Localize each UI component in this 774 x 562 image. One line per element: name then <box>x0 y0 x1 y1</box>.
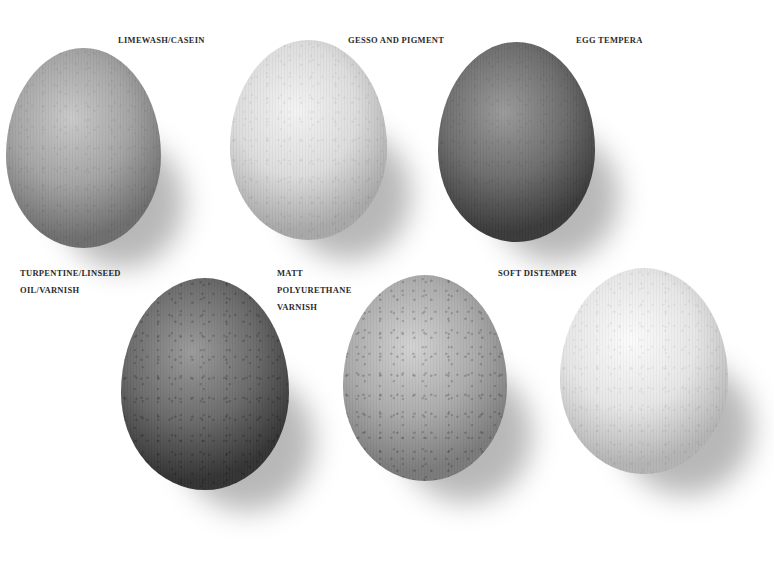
egg-matt-polyurethane-varnish <box>343 275 507 481</box>
egg-body <box>438 42 595 242</box>
egg-body <box>230 40 387 240</box>
egg-texture <box>560 268 728 474</box>
egg-soft-distemper <box>560 268 728 474</box>
egg-gesso-and-pigment <box>230 40 387 240</box>
egg-texture <box>343 275 507 481</box>
label-line: OIL/VARNISH <box>20 282 121 299</box>
egg-body <box>560 268 728 474</box>
egg-texture <box>438 42 595 242</box>
label-limewash-casein: LIMEWASH/CASEIN <box>118 32 205 49</box>
egg-body <box>6 48 161 248</box>
egg-body <box>121 278 289 490</box>
egg-turpentine-linseed-oil-varnish <box>121 278 289 490</box>
egg-egg-tempera <box>438 42 595 242</box>
label-line: TURPENTINE/LINSEED <box>20 265 121 282</box>
label-line: LIMEWASH/CASEIN <box>118 32 205 49</box>
egg-texture <box>121 278 289 490</box>
egg-texture <box>6 48 161 248</box>
label-turpentine-linseed-oil-varnish: TURPENTINE/LINSEED OIL/VARNISH <box>20 265 121 299</box>
egg-body <box>343 275 507 481</box>
egg-texture <box>230 40 387 240</box>
egg-limewash-casein <box>6 48 161 248</box>
